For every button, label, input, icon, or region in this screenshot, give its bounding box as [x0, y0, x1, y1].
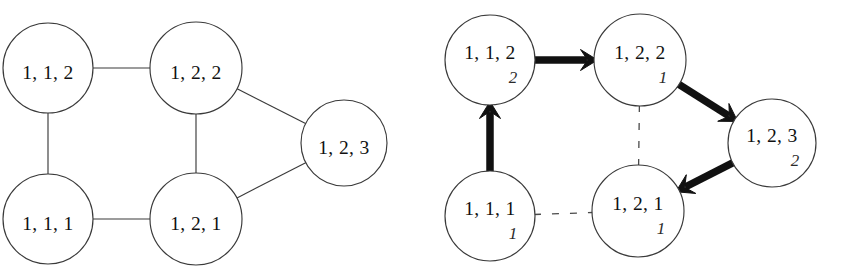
graph-node[interactable]: 1, 1, 11 — [445, 171, 535, 261]
graph-node[interactable]: 1, 1, 2 — [3, 23, 93, 113]
node-label: 1, 1, 2 — [22, 62, 74, 83]
graph-edge — [678, 84, 738, 121]
node-subscript-label: 1 — [657, 219, 666, 238]
graph-edge — [236, 88, 306, 124]
graph-node[interactable]: 1, 2, 2 — [150, 22, 242, 114]
graph-node[interactable]: 1, 2, 32 — [728, 99, 816, 187]
graph-edge — [480, 102, 501, 173]
nodes-layer: 1, 1, 221, 2, 211, 2, 321, 1, 111, 2, 11 — [445, 14, 816, 261]
graph-node[interactable]: 1, 2, 3 — [301, 100, 387, 186]
node-label: 1, 2, 3 — [318, 137, 370, 158]
graph-node[interactable]: 1, 2, 1 — [150, 173, 242, 265]
node-subscript-label: 1 — [509, 224, 518, 243]
graph-edge — [534, 213, 593, 215]
node-label: 1, 2, 1 — [170, 213, 222, 234]
node-subscript-label: 2 — [791, 151, 800, 170]
graph-edge — [676, 162, 734, 193]
node-subscript-label: 2 — [509, 68, 518, 87]
node-subscript-label: 1 — [659, 68, 668, 87]
nodes-layer: 1, 1, 21, 2, 21, 2, 31, 1, 11, 2, 1 — [3, 22, 387, 265]
graph-node[interactable]: 1, 2, 11 — [592, 165, 684, 257]
graph-edge — [534, 50, 598, 71]
graph-node[interactable]: 1, 1, 1 — [3, 174, 93, 264]
node-label: 1, 1, 1 — [464, 198, 516, 219]
node-label: 1, 2, 2 — [170, 62, 222, 83]
node-label: 1, 2, 2 — [614, 42, 666, 63]
node-label: 1, 2, 3 — [746, 125, 798, 146]
graph-edge — [236, 162, 307, 198]
graph-node[interactable]: 1, 1, 22 — [445, 15, 535, 105]
node-label: 1, 2, 1 — [612, 193, 664, 214]
panel-undirected-graph: 1, 1, 21, 2, 21, 2, 31, 1, 11, 2, 1 — [0, 0, 422, 278]
figure-root: 1, 1, 21, 2, 21, 2, 31, 1, 11, 2, 1 1, 1… — [0, 0, 844, 278]
panel-directed-graph: 1, 1, 221, 2, 211, 2, 321, 1, 111, 2, 11 — [422, 0, 844, 278]
graph-edge — [639, 105, 640, 166]
node-label: 1, 1, 1 — [22, 213, 74, 234]
graph-node[interactable]: 1, 2, 21 — [594, 14, 686, 106]
node-label: 1, 1, 2 — [464, 42, 516, 63]
